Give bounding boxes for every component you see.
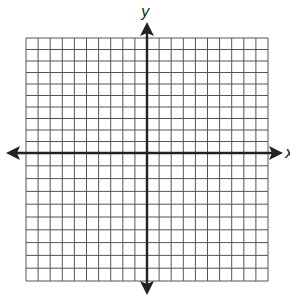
x-axis-label: x [284,144,290,162]
coordinate-plane: y x [0,0,290,300]
y-axis-label: y [140,3,151,21]
axes [6,22,283,295]
